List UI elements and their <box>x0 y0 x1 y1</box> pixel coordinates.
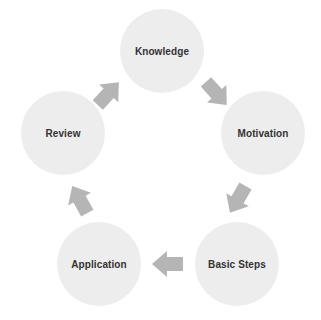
arrow-basicsteps-to-application <box>152 251 183 277</box>
cycle-diagram: Knowledge Motivation Basic Steps Applica… <box>0 0 321 320</box>
cycle-node-label: Application <box>71 259 127 270</box>
arrow-motivation-to-basicsteps <box>219 180 257 220</box>
cycle-node-label: Motivation <box>238 128 289 139</box>
cycle-node-label: Knowledge <box>135 46 189 57</box>
cycle-node-knowledge[interactable]: Knowledge <box>120 9 204 93</box>
cycle-node-application[interactable]: Application <box>57 222 141 306</box>
cycle-node-motivation[interactable]: Motivation <box>221 91 305 175</box>
cycle-node-label: Review <box>45 128 80 139</box>
cycle-node-review[interactable]: Review <box>21 91 105 175</box>
cycle-node-basic-steps[interactable]: Basic Steps <box>195 222 279 306</box>
arrow-application-to-review <box>61 180 99 220</box>
cycle-node-label: Basic Steps <box>208 259 266 270</box>
